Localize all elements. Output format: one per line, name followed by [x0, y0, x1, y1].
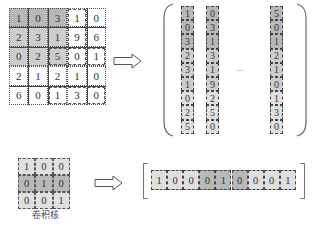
column-cell: 3 — [181, 34, 194, 48]
matrix-cell: 1 — [9, 8, 28, 27]
matrix-cell: 0 — [87, 66, 106, 85]
matrix-cell: 2 — [28, 47, 47, 66]
kernel-cell: 0 — [35, 192, 52, 209]
matrix-cell: 6 — [9, 86, 28, 105]
right-parenthesis — [295, 2, 309, 138]
row-vector-cell: 0 — [232, 170, 248, 190]
ellipsis: ... — [236, 63, 244, 73]
column-cell: 5 — [181, 120, 194, 134]
left-bracket — [143, 163, 148, 199]
kernel-cell: 0 — [53, 175, 70, 192]
column-cell: 1 — [206, 34, 219, 48]
column-cell: 9 — [206, 77, 219, 91]
row-vector-cell: 1 — [215, 170, 231, 190]
column-cell: 1 — [270, 91, 283, 105]
kernel-row-vector: 100010001 — [151, 170, 296, 190]
matrix-cell: 6 — [87, 27, 106, 46]
matrix-cell: 3 — [28, 27, 47, 46]
matrix-cell: 0 — [28, 86, 47, 105]
right-arrow-icon — [113, 53, 143, 69]
input-matrix: 1031023196025012121060130 — [9, 8, 106, 105]
column-cell: 0 — [206, 6, 219, 20]
matrix-cell: 1 — [48, 27, 67, 46]
column-cell: 0 — [181, 91, 194, 105]
kernel-cell: 0 — [18, 192, 35, 209]
row-vector-cell: 1 — [280, 170, 296, 190]
grid-line — [28, 8, 29, 105]
kernel-label: 卷积核 — [27, 208, 63, 221]
row-vector-cell: 0 — [264, 170, 280, 190]
column-cell: 2 — [181, 49, 194, 63]
column-cell: 0 — [181, 20, 194, 34]
row-vector-cell: 1 — [151, 170, 167, 190]
matrix-cell: 0 — [9, 47, 28, 66]
column-cell: 5 — [270, 6, 283, 20]
matrix-cell: 2 — [9, 66, 28, 85]
matrix-cell: 1 — [67, 66, 86, 85]
right-arrow-icon — [94, 175, 124, 191]
kernel-cell: 0 — [53, 158, 70, 175]
right-bracket — [300, 163, 305, 199]
kernel-cell: 1 — [53, 192, 70, 209]
kernel-cell: 1 — [18, 158, 35, 175]
column-cell: 1 — [181, 77, 194, 91]
column-cell: 0 — [270, 20, 283, 34]
matrix-cell: 0 — [87, 8, 106, 27]
matrix-cell: 2 — [9, 27, 28, 46]
kernel-cell: 0 — [35, 158, 52, 175]
column-cell: 2 — [181, 105, 194, 119]
matrix-cell: 3 — [48, 8, 67, 27]
column-cell: 0 — [270, 120, 283, 134]
matrix-cell: 0 — [28, 8, 47, 27]
matrix-cell: 2 — [48, 66, 67, 85]
left-parenthesis — [161, 2, 175, 138]
column-cell: 1 — [270, 34, 283, 48]
column-cell: 3 — [206, 49, 219, 63]
row-vector-cell: 0 — [167, 170, 183, 190]
kernel-matrix: 100010001 — [18, 158, 70, 209]
column-cell: 2 — [270, 49, 283, 63]
matrix-cell: 1 — [28, 66, 47, 85]
column-cell: 2 — [206, 91, 219, 105]
grid-line — [9, 27, 106, 28]
row-vector-cell: 0 — [248, 170, 264, 190]
row-vector-cell: 0 — [183, 170, 199, 190]
column-cell: 1 — [206, 63, 219, 77]
column-cell: 1 — [181, 6, 194, 20]
column-cell: 3 — [206, 20, 219, 34]
kernel-cell: 0 — [18, 175, 35, 192]
column-cell: 0 — [270, 77, 283, 91]
column-cell: 3 — [181, 63, 194, 77]
row-vector-cell: 0 — [199, 170, 215, 190]
column-cell: 3 — [270, 105, 283, 119]
kernel-cell: 1 — [35, 175, 52, 192]
column-cell: 5 — [206, 105, 219, 119]
sliding-window-outline — [49, 48, 105, 65]
sliding-window-outline — [49, 87, 105, 104]
column-cell: 1 — [270, 63, 283, 77]
column-cell: 0 — [206, 120, 219, 134]
